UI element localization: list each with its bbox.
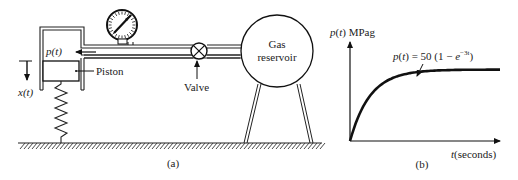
reservoir-label-line1: Gas (268, 38, 285, 50)
series-line-p (350, 70, 500, 141)
gas-reservoir (241, 15, 313, 143)
reservoir-label-line2: reservoir (257, 51, 296, 63)
pressure-gauge-icon (107, 10, 137, 44)
caption-a: (a) (167, 157, 180, 170)
piston-label: Piston (96, 65, 124, 77)
valve-label: Valve (184, 81, 209, 93)
pipe (84, 42, 244, 58)
equation-label: p(t) = 50 (1 − e−3t) (392, 49, 474, 63)
x-axis-label: t(seconds) (451, 148, 497, 161)
y-axis-label: p(t) MPag (329, 26, 375, 39)
piston-leader-dot (75, 70, 77, 72)
equation-leader (417, 64, 423, 76)
figure-canvas: p(t) Piston x(t) Valve Gas reservoir (0, 0, 518, 180)
piston (43, 61, 79, 81)
caption-b: (b) (416, 158, 429, 171)
displacement-label: x(t) (17, 86, 34, 99)
pressure-label: p(t) (45, 45, 62, 58)
spring (55, 81, 67, 143)
figure-b: p(t) MPag t(seconds) p(t) = 50 (1 − e−3t… (329, 26, 500, 171)
valve-icon (191, 43, 207, 59)
figure-a: p(t) Piston x(t) Valve Gas reservoir (17, 10, 325, 170)
ground (18, 143, 325, 149)
